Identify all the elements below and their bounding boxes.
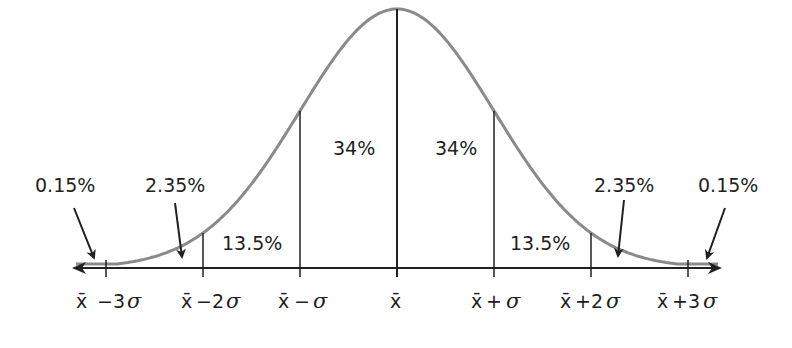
svg-text:+: +: [486, 290, 502, 312]
svg-text:σ: σ: [313, 289, 328, 313]
svg-text:x̄: x̄: [471, 290, 482, 312]
arrow-right-0-15: [707, 208, 725, 258]
svg-text:σ: σ: [506, 289, 521, 313]
svg-text:σ: σ: [606, 289, 621, 313]
sigma-dividers: [106, 9, 688, 277]
tick-label-plus-3-sigma: x̄ +3 σ: [657, 289, 718, 313]
svg-text:x̄: x̄: [278, 290, 289, 312]
svg-text:−3: −3: [97, 290, 125, 312]
svg-text:−: −: [294, 290, 310, 312]
svg-text:+3: +3: [672, 290, 700, 312]
svg-text:x̄: x̄: [390, 290, 401, 312]
svg-text:x̄: x̄: [76, 290, 87, 312]
label-left-0-15: 0.15%: [35, 174, 95, 196]
label-right-34: 34%: [435, 137, 477, 159]
tick-label-minus-sigma: x̄ − σ: [278, 289, 328, 313]
svg-text:−2: −2: [196, 290, 224, 312]
tick-label-plus-2-sigma: x̄ +2 σ: [560, 289, 621, 313]
label-left-13-5: 13.5%: [222, 232, 282, 254]
svg-text:x̄: x̄: [657, 290, 668, 312]
normal-distribution-diagram: 34% 34% 13.5% 13.5% 2.35% 2.35% 0.15% 0.…: [0, 0, 792, 348]
label-left-34: 34%: [333, 137, 375, 159]
svg-text:x̄: x̄: [560, 290, 571, 312]
tick-label-minus-3-sigma: x̄ −3 σ: [76, 289, 142, 313]
svg-text:σ: σ: [703, 289, 718, 313]
svg-text:σ: σ: [226, 289, 241, 313]
tick-label-minus-2-sigma: x̄ −2 σ: [181, 289, 241, 313]
label-left-2-35: 2.35%: [145, 174, 205, 196]
label-right-0-15: 0.15%: [698, 174, 758, 196]
arrow-left-0-15: [74, 208, 94, 258]
svg-text:x̄: x̄: [181, 290, 192, 312]
arrow-right-2-35: [618, 200, 624, 256]
svg-text:σ: σ: [127, 289, 142, 313]
label-right-2-35: 2.35%: [594, 174, 654, 196]
svg-text:+2: +2: [575, 290, 603, 312]
tick-label-plus-sigma: x̄ + σ: [471, 289, 521, 313]
label-right-13-5: 13.5%: [510, 232, 570, 254]
tick-label-mean: x̄: [390, 290, 401, 312]
